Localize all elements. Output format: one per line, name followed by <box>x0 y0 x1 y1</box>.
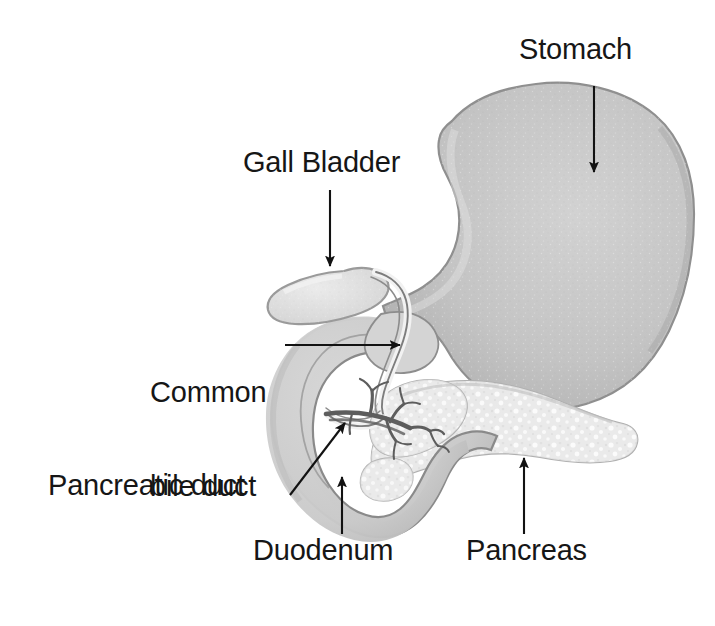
label-common-bile-duct: Common bile duct <box>150 314 266 565</box>
label-pancreas: Pancreas <box>466 535 587 566</box>
gall-bladder-shape <box>268 268 389 324</box>
anatomy-illustration <box>0 0 715 626</box>
label-common-bile-duct-line1: Common <box>150 377 266 408</box>
label-pancreatic-duct: Pancreatic duct <box>48 470 245 501</box>
label-stomach: Stomach <box>519 34 632 65</box>
anatomy-figure: Stomach Gall Bladder Common bile duct Pa… <box>0 0 715 626</box>
label-duodenum: Duodenum <box>253 535 393 566</box>
label-gall-bladder: Gall Bladder <box>243 147 400 178</box>
